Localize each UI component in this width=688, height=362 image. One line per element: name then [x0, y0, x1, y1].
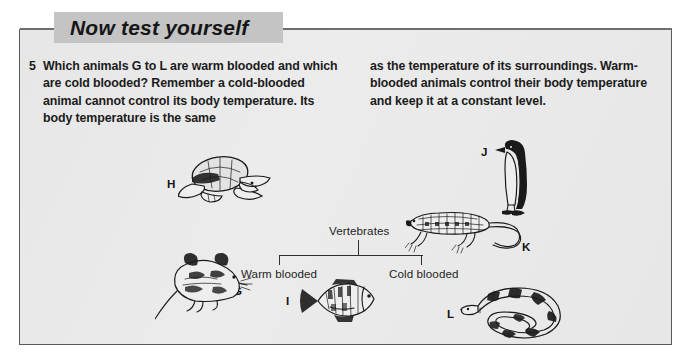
diagram-label-cold-blooded: Cold blooded: [389, 267, 459, 280]
section-title: Now test yourself: [70, 14, 280, 42]
animal-letter-i: I: [286, 294, 289, 307]
diagram-label-vertebrates: Vertebrates: [329, 224, 389, 237]
worksheet-page: Now test yourself 5 Which animals G to L…: [0, 0, 688, 362]
turtle-illustration: [178, 152, 274, 212]
animal-letter-h: H: [167, 177, 175, 190]
question-text-column-right: as the temperature of its surroundings. …: [370, 58, 670, 110]
question-text-column-left: Which animals G to L are warm blooded an…: [43, 58, 343, 128]
mouse-illustration: [155, 251, 273, 333]
animal-letter-j: J: [481, 145, 487, 158]
diagram-stem-center: [358, 240, 359, 256]
snake-illustration: [460, 280, 572, 348]
diagram-stem-left: [279, 255, 280, 265]
diagram-bracket-horizontal: [279, 255, 423, 256]
fish-illustration: [296, 277, 378, 329]
question-number: 5: [29, 59, 36, 73]
animal-letter-l: L: [447, 307, 454, 320]
lizard-illustration: [405, 205, 531, 259]
